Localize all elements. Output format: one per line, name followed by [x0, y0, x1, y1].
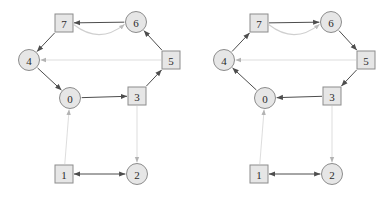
graph-node-4[interactable]: 4 — [19, 50, 40, 71]
graph-canvas: 0123456701234567 — [0, 0, 391, 200]
graph-edge — [260, 110, 264, 164]
graph-node-7[interactable]: 7 — [55, 14, 73, 32]
graph-node-1[interactable]: 1 — [250, 165, 268, 183]
graph-node-2[interactable]: 2 — [322, 164, 343, 185]
node-square-shape — [55, 14, 73, 32]
node-circle-shape — [19, 50, 40, 71]
graph-edge — [339, 31, 357, 50]
node-circle-shape — [60, 88, 81, 109]
edge-layer — [37, 22, 357, 174]
graph-figure: 0123456701234567 — [0, 0, 391, 200]
node-square-shape — [250, 165, 268, 183]
graph-edge — [341, 70, 356, 86]
graph-edge — [232, 33, 250, 52]
node-square-shape — [357, 51, 375, 69]
graph-edge — [277, 96, 322, 97]
graph-edge — [269, 22, 319, 23]
graph-node-3[interactable]: 3 — [323, 87, 341, 105]
node-layer: 0123456701234567 — [19, 12, 376, 185]
node-square-shape — [128, 87, 146, 105]
node-circle-shape — [127, 164, 148, 185]
graph-node-2[interactable]: 2 — [127, 164, 148, 185]
graph-edge — [144, 31, 162, 50]
graph-node-7[interactable]: 7 — [250, 14, 268, 32]
graph-node-1[interactable]: 1 — [55, 165, 73, 183]
graph-edge — [146, 70, 161, 86]
node-circle-shape — [255, 88, 276, 109]
graph-edge — [65, 110, 69, 164]
graph-edge — [233, 68, 257, 90]
graph-node-0[interactable]: 0 — [60, 88, 81, 109]
graph-node-5[interactable]: 5 — [357, 51, 375, 69]
node-square-shape — [55, 165, 73, 183]
graph-node-6[interactable]: 6 — [321, 12, 342, 33]
graph-edge — [82, 96, 127, 97]
graph-node-4[interactable]: 4 — [214, 50, 235, 71]
graph-node-5[interactable]: 5 — [162, 51, 180, 69]
node-circle-shape — [321, 12, 342, 33]
node-circle-shape — [322, 164, 343, 185]
graph-edge — [74, 22, 124, 23]
graph-node-3[interactable]: 3 — [128, 87, 146, 105]
node-square-shape — [323, 87, 341, 105]
graph-edge — [37, 33, 55, 52]
graph-node-6[interactable]: 6 — [126, 12, 147, 33]
graph-edge — [38, 68, 62, 90]
node-square-shape — [162, 51, 180, 69]
node-square-shape — [250, 14, 268, 32]
graph-edge-curved — [269, 24, 320, 34]
node-circle-shape — [126, 12, 147, 33]
graph-edge-curved — [74, 24, 125, 34]
graph-node-0[interactable]: 0 — [255, 88, 276, 109]
node-circle-shape — [214, 50, 235, 71]
